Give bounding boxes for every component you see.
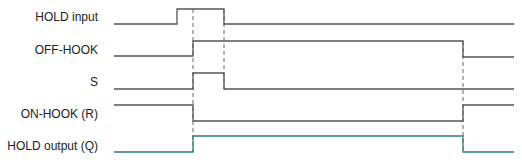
signal-waveforms: [114, 9, 514, 152]
waveform-3: [114, 105, 514, 121]
timing-diagram: HOLD input OFF-HOOK S ON-HOOK (R) HOLD o…: [0, 0, 522, 165]
waveform-4: [114, 136, 514, 152]
waveform-0: [114, 9, 514, 24]
waveform-2: [114, 73, 514, 89]
waveform-1: [114, 41, 514, 57]
dashed-markers: [193, 9, 463, 152]
waveforms: [0, 0, 522, 165]
